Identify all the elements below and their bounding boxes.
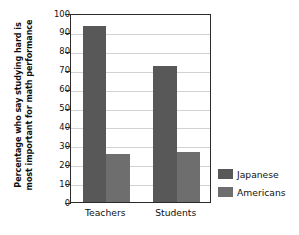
y-axis-title-line-1: Percentage who say studying hard is [13, 20, 24, 191]
legend-item: Americans [218, 184, 298, 200]
bar [106, 154, 130, 202]
legend-swatch [218, 169, 233, 179]
legend: JapaneseAmericans [218, 166, 298, 202]
plot-area [70, 14, 211, 203]
x-axis-tick-label: Students [136, 207, 216, 218]
bar-series-group [71, 15, 210, 202]
bar-chart-figure: Percentage who say studying hard is most… [0, 0, 299, 235]
bar [177, 152, 201, 202]
bar [83, 26, 107, 202]
tick-mark [65, 203, 71, 204]
bar [153, 66, 177, 202]
legend-item: Japanese [218, 166, 298, 182]
legend-label: Americans [237, 187, 286, 198]
y-axis-title-line-2: most important for math performance [23, 20, 34, 191]
legend-label: Japanese [237, 169, 279, 180]
x-axis-tick-label: Teachers [65, 207, 145, 218]
y-axis-title: Percentage who say studying hard is most… [0, 0, 46, 210]
legend-swatch [218, 187, 233, 197]
